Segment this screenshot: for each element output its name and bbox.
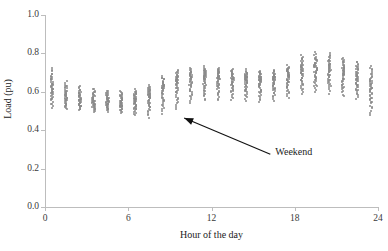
scatter-point [342, 83, 344, 85]
scatter-point [329, 83, 331, 85]
scatter-point [161, 75, 163, 77]
scatter-point [148, 86, 150, 88]
scatter-point [260, 89, 262, 91]
scatter-point [51, 87, 53, 89]
scatter-point [355, 98, 357, 100]
scatter-point [93, 88, 95, 90]
scatter-point [175, 96, 177, 98]
x-tick-mark [128, 207, 129, 211]
scatter-point [177, 97, 179, 99]
y-tick-label: 0.2 [27, 164, 39, 174]
scatter-point [356, 61, 358, 63]
scatter-point [148, 117, 150, 119]
scatter-point [176, 85, 178, 87]
x-tick-label: 6 [126, 214, 131, 224]
scatter-point [356, 93, 358, 95]
scatter-point [66, 108, 68, 110]
scatter-point [329, 54, 331, 56]
y-tick-mark [41, 169, 45, 170]
scatter-point [259, 70, 261, 72]
y-tick-mark [41, 53, 45, 54]
scatter-point [342, 77, 344, 79]
scatter-point [230, 99, 232, 101]
scatter-point [149, 109, 151, 111]
scatter-point [315, 56, 317, 58]
scatter-point [162, 89, 164, 91]
scatter-point [273, 100, 275, 102]
scatter-point [190, 96, 192, 98]
scatter-point [302, 91, 304, 93]
scatter-point [175, 106, 177, 108]
scatter-point [343, 67, 345, 69]
scatter-point [52, 81, 54, 83]
scatter-point [357, 96, 359, 98]
scatter-point [370, 65, 372, 67]
scatter-point [204, 98, 206, 100]
scatter-point [330, 69, 332, 71]
scatter-point [177, 101, 179, 103]
scatter-point [218, 90, 220, 92]
scatter-point [189, 67, 191, 69]
scatter-point [258, 101, 260, 103]
scatter-point [204, 93, 206, 95]
weekend-annotation-label: Weekend [275, 147, 312, 157]
scatter-point [315, 53, 317, 55]
x-tick-label: 18 [290, 214, 300, 224]
scatter-point [343, 59, 345, 61]
scatter-point [302, 64, 304, 66]
scatter-point [245, 68, 247, 70]
scatter-point [80, 97, 82, 99]
x-tick-label: 24 [373, 214, 383, 224]
scatter-point [300, 60, 302, 62]
y-tick-label: 0.0 [27, 202, 39, 212]
scatter-point [371, 71, 373, 73]
scatter-point [107, 111, 109, 113]
scatter-point [148, 84, 150, 86]
scatter-point [203, 67, 205, 69]
scatter-point [371, 68, 373, 70]
scatter-point [161, 113, 163, 115]
y-tick-mark [41, 92, 45, 93]
scatter-point [79, 85, 81, 87]
x-tick-mark [378, 207, 379, 211]
scatter-point [288, 97, 290, 99]
scatter-point [327, 78, 329, 80]
scatter-point [134, 88, 136, 90]
scatter-point [232, 68, 234, 70]
scatter-point [274, 78, 276, 80]
scatter-point [163, 87, 165, 89]
x-tick-mark [45, 207, 46, 211]
scatter-point [273, 69, 275, 71]
scatter-point [51, 69, 53, 71]
scatter-point [300, 87, 302, 89]
scatter-point [189, 102, 191, 104]
scatter-point [175, 104, 177, 106]
scatter-point [245, 70, 247, 72]
scatter-point [163, 78, 165, 80]
scatter-point [244, 98, 246, 100]
scatter-point [205, 84, 207, 86]
scatter-point [329, 90, 331, 92]
scatter-point [217, 98, 219, 100]
scatter-point [64, 84, 66, 86]
scatter-point [189, 88, 191, 90]
chart-figure: 0.00.20.40.60.81.0 06121824 Hour of the … [0, 0, 388, 251]
scatter-point [203, 65, 205, 67]
y-tick-label: 1.0 [27, 10, 39, 20]
scatter-point [119, 90, 121, 92]
scatter-point [52, 101, 54, 103]
scatter-point [342, 57, 344, 59]
scatter-point [301, 93, 303, 95]
scatter-point [94, 90, 96, 92]
scatter-point [191, 81, 193, 83]
scatter-point [286, 64, 288, 66]
scatter-point [314, 87, 316, 89]
scatter-point [162, 103, 164, 105]
scatter-point [79, 89, 81, 91]
scatter-point [357, 80, 359, 82]
scatter-point [301, 62, 303, 64]
scatter-point [369, 114, 371, 116]
scatter-point [370, 110, 372, 112]
scatter-point [369, 112, 371, 114]
scatter-point [177, 89, 179, 91]
